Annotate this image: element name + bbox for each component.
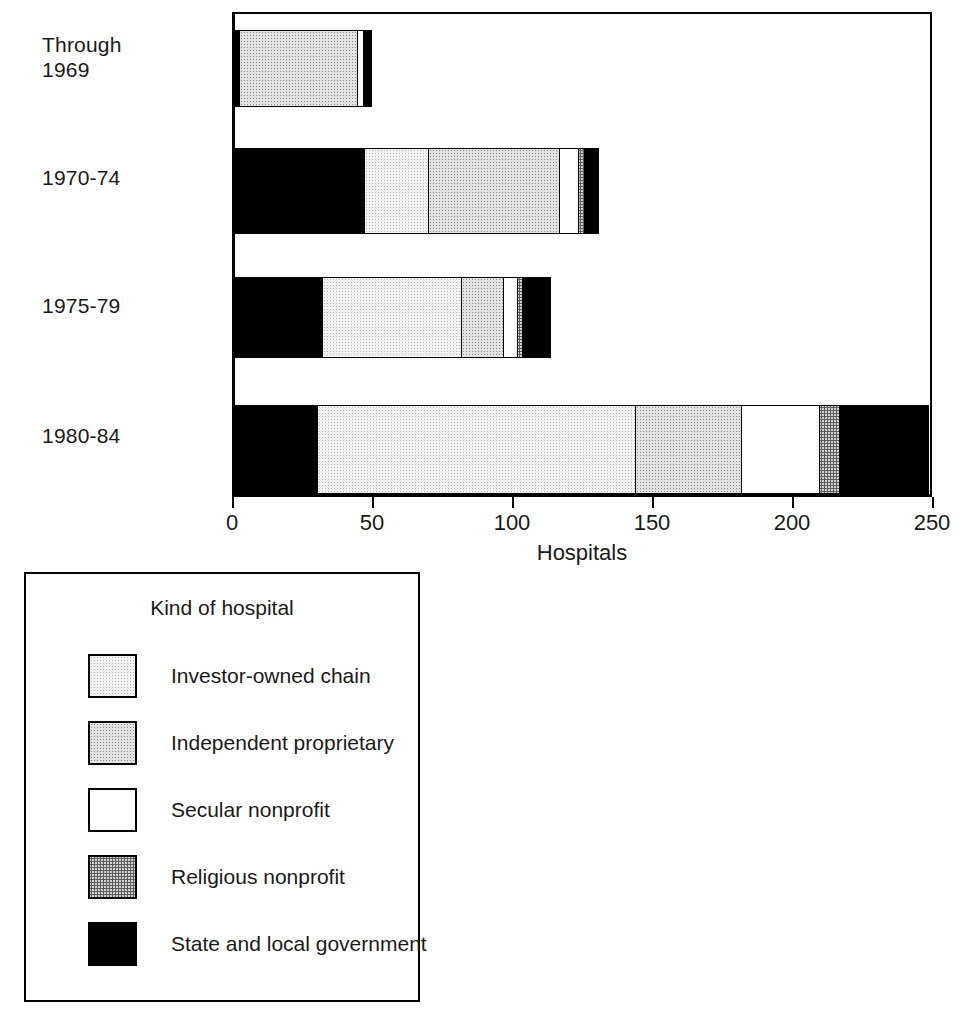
bar-segment-independent bbox=[461, 278, 503, 357]
legend-item-secular: Secular nonprofit bbox=[26, 776, 418, 843]
bar-segment-investor bbox=[322, 278, 461, 357]
bar-segment-religious bbox=[819, 406, 839, 493]
bar-1 bbox=[232, 30, 372, 107]
bar-segment-government bbox=[233, 406, 317, 493]
bar-segment-government bbox=[233, 149, 364, 233]
x-tick-200 bbox=[792, 497, 794, 508]
category-label-2: 1970-74 bbox=[27, 165, 232, 190]
bar-segment-independent bbox=[635, 406, 741, 493]
x-tick-100 bbox=[512, 497, 514, 508]
x-tick-label-100: 100 bbox=[494, 510, 531, 536]
legend-label-investor: Investor-owned chain bbox=[171, 664, 371, 688]
x-tick-label-200: 200 bbox=[774, 510, 811, 536]
legend-item-investor: Investor-owned chain bbox=[26, 642, 418, 709]
bar-segment-government bbox=[233, 278, 322, 357]
x-tick-50 bbox=[372, 497, 374, 508]
legend-label-independent: Independent proprietary bbox=[171, 731, 394, 755]
legend-item-religious: Religious nonprofit bbox=[26, 843, 418, 910]
bar-4 bbox=[232, 405, 929, 494]
legend-swatch-independent bbox=[88, 721, 137, 765]
category-label-3: 1975-79 bbox=[27, 293, 232, 318]
legend-label-government: State and local government bbox=[171, 932, 427, 956]
x-tick-250 bbox=[932, 497, 934, 508]
bar-segment-government bbox=[363, 31, 371, 106]
x-tick-label-250: 250 bbox=[914, 510, 951, 536]
bar-segment-secular bbox=[741, 406, 819, 493]
legend-items: Investor-owned chainIndependent propriet… bbox=[26, 642, 418, 977]
bar-segment-independent bbox=[428, 149, 559, 233]
legend-swatch-investor bbox=[88, 654, 137, 698]
bar-segment-government bbox=[839, 406, 928, 493]
legend-item-independent: Independent proprietary bbox=[26, 709, 418, 776]
legend-swatch-secular bbox=[88, 788, 137, 832]
legend-label-religious: Religious nonprofit bbox=[171, 865, 345, 889]
x-tick-label-50: 50 bbox=[360, 510, 384, 536]
bar-segment-secular bbox=[503, 278, 517, 357]
bar-segment-independent bbox=[239, 31, 358, 106]
x-tick-label-150: 150 bbox=[634, 510, 671, 536]
legend-title: Kind of hospital bbox=[26, 596, 418, 620]
category-label-4: 1980-84 bbox=[27, 423, 232, 448]
bar-3 bbox=[232, 277, 551, 358]
legend-item-government: State and local government bbox=[26, 910, 418, 977]
category-label-1: Through 1969 bbox=[27, 32, 232, 82]
bar-2 bbox=[232, 148, 599, 234]
x-tick-0 bbox=[232, 497, 234, 508]
legend-label-secular: Secular nonprofit bbox=[171, 798, 330, 822]
x-tick-label-0: 0 bbox=[226, 510, 238, 536]
x-tick-150 bbox=[652, 497, 654, 508]
bar-segment-secular bbox=[559, 149, 579, 233]
legend-swatch-religious bbox=[88, 855, 137, 899]
bar-segment-investor bbox=[364, 149, 428, 233]
x-axis-title: Hospitals bbox=[232, 540, 932, 566]
legend-swatch-government bbox=[88, 922, 137, 966]
hospitals-stacked-bar-chart: Through 19691970-741975-791980-84 050100… bbox=[0, 0, 965, 560]
bar-segment-government bbox=[584, 149, 598, 233]
bar-segment-investor bbox=[317, 406, 635, 493]
legend: Kind of hospital Investor-owned chainInd… bbox=[24, 572, 420, 1002]
bar-segment-government bbox=[522, 278, 550, 357]
